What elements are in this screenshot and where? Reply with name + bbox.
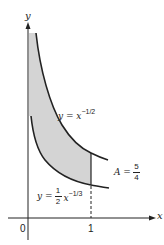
- diagram-canvas: [0, 0, 164, 245]
- upper-curve-label: y = x−1/2: [58, 108, 95, 121]
- lower-curve-label: y = 1 2 x−1/3: [37, 187, 82, 206]
- area-fraction: 5 4: [133, 163, 140, 182]
- area-label: A = 5 4: [114, 163, 140, 182]
- x-axis-label: x: [157, 211, 163, 221]
- origin-label: 0: [20, 224, 26, 234]
- y-axis-arrow-icon: [26, 22, 31, 29]
- x-axis-arrow-icon: [149, 216, 156, 221]
- x-tick-label-1: 1: [88, 224, 94, 234]
- y-axis-label: y: [25, 11, 31, 21]
- coefficient-fraction: 1 2: [55, 187, 62, 206]
- area-between-curves-diagram: y x 0 1 y = x−1/2 y = 1 2 x−1/3 A = 5 4: [0, 0, 164, 245]
